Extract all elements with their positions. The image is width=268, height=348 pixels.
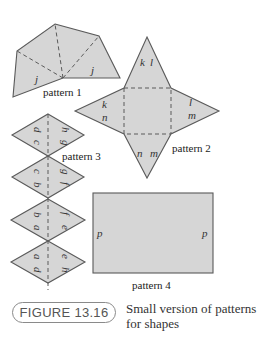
- pattern-4-label-p-right: p: [201, 227, 208, 239]
- pattern-2-label-left-n: n: [102, 111, 108, 123]
- figure-caption: Small version of patterns for shapes: [126, 301, 266, 331]
- pattern-2-label-right-m: m: [188, 109, 196, 121]
- pattern-3-d1-label-right-b: g: [60, 140, 72, 146]
- figure-caption-line-2: for shapes: [126, 316, 266, 331]
- pattern-2-caption: pattern 2: [172, 142, 211, 154]
- pattern-3-d3-label-left-a: b: [32, 212, 44, 218]
- pattern-3-d4-label-right-b: h: [60, 267, 72, 273]
- pattern-3-d3-label-left-b: a: [32, 225, 44, 231]
- pattern-3-d4-label-right-a: e: [60, 254, 72, 259]
- pattern-4-label-p-left: p: [96, 227, 103, 239]
- pattern-4: p p pattern 4: [93, 193, 213, 291]
- pattern-3-d1-label-right-a: h: [60, 127, 72, 133]
- pattern-3-d2-label-right-a: g: [60, 169, 72, 175]
- pattern-4-caption: pattern 4: [132, 279, 171, 291]
- pattern-2-label-right-l: l: [189, 96, 192, 108]
- figure-number-badge: FIGURE 13.16: [12, 302, 116, 323]
- pattern-2-label-bottom-m: m: [150, 147, 158, 159]
- pattern-3-d2-label-left-a: c: [32, 169, 44, 174]
- pattern-1: j j pattern 1: [13, 24, 120, 98]
- pattern-3-d1-label-left-a: d: [32, 127, 44, 133]
- pattern-3: d c h g c b g f b a f e a d e h pattern …: [11, 114, 101, 290]
- pattern-3-d4-label-left-b: d: [32, 267, 44, 273]
- patterns-diagram: j j pattern 1 k l k n l m n m pattern 2 …: [0, 0, 268, 300]
- pattern-2-label-top-l: l: [150, 56, 153, 68]
- pattern-1-caption: pattern 1: [43, 86, 82, 98]
- pattern-2-label-bottom-n: n: [137, 147, 143, 159]
- figure-caption-line-1: Small version of patterns: [126, 301, 266, 316]
- pattern-3-d3-label-right-b: e: [60, 225, 72, 230]
- pattern-3-d2-label-left-b: b: [32, 182, 44, 188]
- pattern-3-d4-label-left-a: a: [32, 254, 44, 260]
- pattern-3-caption: pattern 3: [62, 150, 101, 162]
- pattern-3-d1-label-left-b: c: [32, 140, 44, 145]
